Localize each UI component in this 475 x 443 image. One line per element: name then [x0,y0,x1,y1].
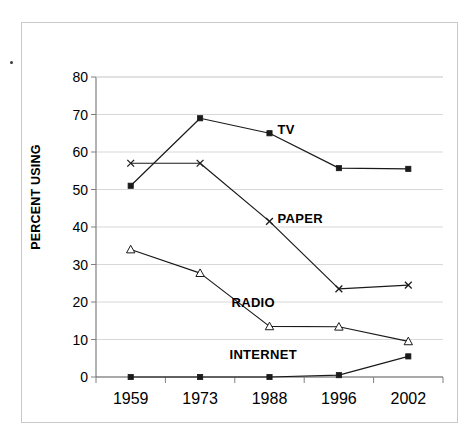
data-marker-square [267,374,272,379]
data-marker-square [336,373,341,378]
y-tick-label: 40 [54,220,88,234]
series-label-paper: PAPER [278,211,323,226]
chart-figure: PERCENT USING 01020304050607080 19591973… [0,0,475,443]
data-marker-square [406,166,411,171]
plot-area: PERCENT USING 01020304050607080 19591973… [0,0,475,443]
data-marker-triangle [127,245,135,253]
data-marker-square [128,183,133,188]
data-series-layer [127,116,413,380]
x-tick-label: 1959 [96,391,166,407]
series-line [131,163,409,289]
x-tick-label: 1996 [304,391,374,407]
y-tick-label: 20 [54,295,88,309]
data-marker-square [336,166,341,171]
y-tick-label: 30 [54,258,88,272]
data-marker-square [128,374,133,379]
x-tick-label: 2002 [373,391,443,407]
series-paper [127,160,411,292]
data-marker-square [267,131,272,136]
y-tick-label: 10 [54,333,88,347]
data-marker-square [198,374,203,379]
y-tick-label: 80 [54,70,88,84]
y-tick-label: 0 [54,370,88,384]
x-tick-label: 1988 [235,391,305,407]
series-label-tv: TV [278,122,295,137]
series-label-internet: INTERNET [230,347,297,362]
data-marker-square [198,116,203,121]
x-tick-label: 1973 [165,391,235,407]
data-marker-square [406,354,411,359]
gridlines [91,77,443,377]
y-tick-label: 50 [54,183,88,197]
y-tick-label: 60 [54,145,88,159]
series-label-radio: RADIO [232,295,275,310]
y-tick-label: 70 [54,108,88,122]
